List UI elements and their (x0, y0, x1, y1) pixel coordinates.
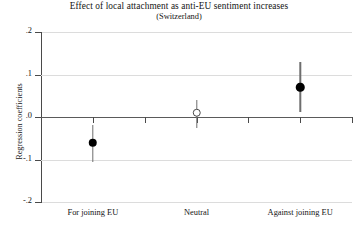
x-axis-category-label: Neutral (184, 208, 209, 217)
y-axis-end-cap (38, 32, 42, 33)
y-axis-tick (35, 117, 41, 118)
data-point-marker (89, 138, 98, 147)
x-axis-tick (248, 117, 249, 123)
x-axis-tick (145, 117, 146, 123)
y-axis-tick-label: .0 (0, 112, 32, 120)
title-block: Effect of local attachment as anti-EU se… (0, 2, 358, 22)
page-title: Effect of local attachment as anti-EU se… (0, 2, 358, 12)
x-axis-category-label: Against joining EU (268, 208, 333, 217)
gridline (41, 75, 352, 76)
gridline (41, 160, 352, 161)
gridline (41, 202, 352, 203)
y-axis-tick (35, 160, 41, 161)
y-axis-tick-label: .1 (0, 70, 32, 78)
chart-subtitle: (Switzerland) (0, 13, 358, 22)
y-axis-tick-label: -.1 (0, 155, 32, 163)
gridline (41, 32, 352, 33)
x-axis-category-label: For joining EU (67, 208, 118, 217)
y-axis-end-cap (38, 202, 42, 203)
y-axis-tick-label: -.2 (0, 197, 32, 205)
coefficient-plot: Effect of local attachment as anti-EU se… (0, 0, 358, 230)
y-axis-tick (35, 75, 41, 76)
data-point-marker (296, 83, 305, 92)
data-point-marker (192, 109, 201, 118)
x-axis-tick (352, 117, 353, 123)
x-axis-tick (93, 117, 94, 123)
x-axis-tick (300, 117, 301, 123)
y-axis-tick-label: .2 (0, 27, 32, 35)
